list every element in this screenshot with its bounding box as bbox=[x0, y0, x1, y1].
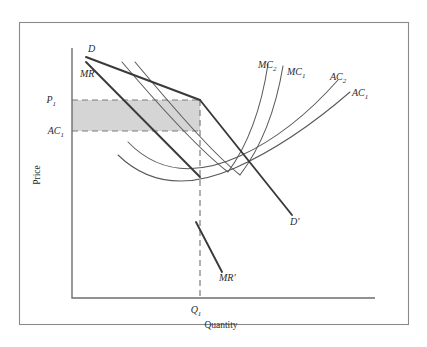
label-average-cost-1: AC1 bbox=[351, 87, 368, 101]
figure-container: D MR D' MR' MC2 MC1 AC2 AC1 P1 AC1 Q1 Pr… bbox=[0, 0, 427, 347]
label-marginal-revenue: MR bbox=[79, 68, 94, 79]
label-average-cost-2: AC2 bbox=[329, 71, 347, 85]
demand-lower-segment bbox=[200, 100, 292, 215]
label-demand: D bbox=[87, 43, 96, 54]
kinked-demand-diagram: D MR D' MR' MC2 MC1 AC2 AC1 P1 AC1 Q1 Pr… bbox=[0, 0, 427, 347]
label-marginal-cost-1: MC1 bbox=[286, 66, 306, 80]
y-axis-title: Price bbox=[32, 165, 42, 185]
x-axis-title: Quantity bbox=[204, 320, 237, 330]
label-demand-prime: D' bbox=[289, 216, 300, 227]
tick-label-p1: P1 bbox=[45, 94, 56, 108]
figure-border bbox=[20, 23, 409, 325]
tick-label-q1: Q1 bbox=[191, 304, 202, 318]
tick-label-ac1: AC1 bbox=[47, 125, 64, 139]
label-marginal-revenue-prime: MR' bbox=[218, 272, 236, 283]
